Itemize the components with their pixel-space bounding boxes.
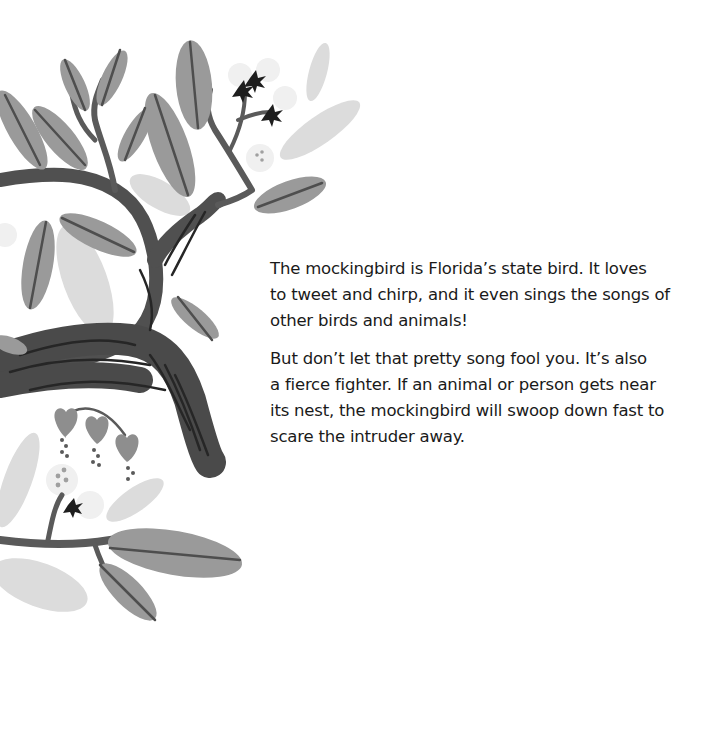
text-line: scare the intruder away.: [270, 424, 690, 450]
text-line: its nest, the mockingbird will swoop dow…: [270, 398, 690, 424]
text-line: other birds and animals!: [270, 308, 690, 334]
text-line: a fierce fighter. If an animal or person…: [270, 372, 690, 398]
paragraph-2: But don’t let that pretty song fool you.…: [270, 346, 690, 450]
book-page: The mockingbird is Florida’s state bird.…: [0, 0, 712, 730]
body-text: The mockingbird is Florida’s state bird.…: [270, 256, 690, 462]
paragraph-1: The mockingbird is Florida’s state bird.…: [270, 256, 690, 334]
text-line: But don’t let that pretty song fool you.…: [270, 346, 690, 372]
text-line: The mockingbird is Florida’s state bird.…: [270, 256, 690, 282]
text-line: to tweet and chirp, and it even sings th…: [270, 282, 690, 308]
